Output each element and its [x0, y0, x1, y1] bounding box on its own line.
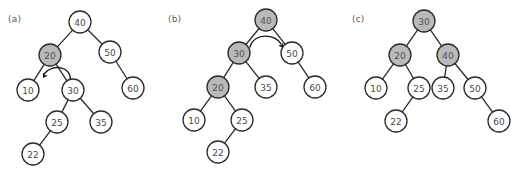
node-value-label: 50: [469, 84, 481, 94]
tree-panel-c: 302040102535502260: [365, 10, 510, 132]
node-value-label: 60: [309, 83, 321, 93]
avl-rotation-figure: 4020501030602535224030502035601025223020…: [0, 0, 524, 171]
node-value-label: 35: [95, 118, 106, 128]
tree-edge: [430, 30, 441, 46]
tree-node-30: 30: [62, 79, 84, 101]
tree-edge: [402, 97, 412, 112]
tree-edge: [224, 62, 233, 77]
node-value-label: 20: [212, 83, 224, 93]
tree-edge: [455, 64, 468, 80]
tree-node-10: 10: [183, 109, 205, 131]
tree-edge: [40, 131, 51, 145]
tree-node-50: 50: [281, 42, 303, 64]
node-value-label: 25: [51, 118, 62, 128]
tree-node-22: 22: [385, 110, 407, 132]
node-value-label: 22: [212, 148, 223, 158]
edge-group: [382, 30, 492, 112]
tree-node-50: 50: [99, 41, 121, 63]
node-value-label: 10: [22, 86, 34, 96]
node-value-label: 22: [390, 117, 401, 127]
tree-node-20: 20: [39, 44, 61, 66]
node-value-label: 10: [188, 116, 200, 126]
node-value-label: 22: [27, 150, 38, 160]
tree-panel-a: 402050103060253522: [17, 11, 144, 165]
tree-edge: [34, 64, 44, 80]
node-value-label: 40: [74, 18, 86, 28]
tree-node-22: 22: [22, 143, 44, 165]
tree-node-35: 35: [255, 76, 277, 98]
tree-node-60: 60: [488, 110, 510, 132]
tree-edge: [80, 98, 94, 113]
node-value-label: 40: [260, 16, 272, 26]
rotation-arrow-curve: [250, 36, 281, 47]
tree-edge: [382, 64, 393, 79]
tree-edge: [116, 61, 127, 78]
tree-node-60: 60: [122, 77, 144, 99]
tree-edge: [298, 62, 309, 78]
tree-edge: [246, 62, 259, 79]
node-value-label: 40: [442, 51, 454, 61]
node-value-label: 60: [127, 84, 139, 94]
node-value-label: 50: [286, 49, 298, 59]
tree-node-40: 40: [255, 9, 277, 31]
tree-node-40: 40: [69, 11, 91, 33]
tree-node-35: 35: [90, 111, 112, 133]
tree-edge: [224, 96, 235, 111]
node-value-label: 20: [394, 51, 406, 61]
tree-edge: [225, 129, 236, 143]
panel-caption-c: (c): [352, 14, 365, 24]
tree-diagram-canvas: 4020501030602535224030502035601025223020…: [0, 0, 524, 171]
tree-node-22: 22: [207, 141, 229, 163]
tree-edge: [200, 96, 211, 111]
tree-edge: [62, 100, 68, 112]
tree-node-50: 50: [464, 77, 486, 99]
node-value-label: 30: [233, 49, 245, 59]
tree-edge: [406, 30, 417, 46]
node-value-label: 35: [260, 83, 271, 93]
tree-node-30: 30: [228, 42, 250, 64]
node-value-label: 30: [67, 86, 79, 96]
node-value-label: 10: [370, 84, 382, 94]
tree-node-35: 35: [432, 77, 454, 99]
tree-edge: [405, 65, 413, 79]
tree-panel-b: 403050203560102522: [183, 9, 326, 163]
tree-edge: [88, 30, 102, 44]
tree-node-25: 25: [231, 109, 253, 131]
tree-node-25: 25: [46, 111, 68, 133]
tree-edge: [445, 66, 447, 77]
panel-caption-b: (b): [168, 14, 181, 24]
tree-edge: [56, 64, 67, 81]
tree-node-60: 60: [304, 76, 326, 98]
tree-edge: [57, 30, 72, 47]
tree-node-10: 10: [17, 79, 39, 101]
tree-node-10: 10: [365, 77, 387, 99]
panel-caption-a: (a): [8, 14, 21, 24]
node-value-label: 20: [44, 51, 56, 61]
tree-node-20: 20: [389, 44, 411, 66]
tree-node-40: 40: [437, 44, 459, 66]
node-value-label: 60: [493, 117, 505, 127]
tree-node-30: 30: [413, 10, 435, 32]
node-value-label: 50: [104, 48, 116, 58]
tree-node-25: 25: [408, 77, 430, 99]
tree-node-20: 20: [207, 76, 229, 98]
node-value-label: 25: [236, 116, 247, 126]
tree-edge: [481, 97, 492, 112]
node-value-label: 35: [437, 84, 448, 94]
node-value-label: 30: [418, 17, 430, 27]
node-value-label: 25: [413, 84, 424, 94]
